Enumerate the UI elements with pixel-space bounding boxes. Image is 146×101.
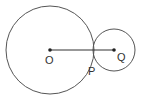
tangent-circles-diagram: O P Q [0, 0, 146, 101]
label-P: P [88, 65, 95, 77]
label-Q: Q [117, 51, 126, 63]
label-O: O [45, 54, 54, 66]
point-O [48, 48, 52, 52]
point-Q [112, 48, 116, 52]
